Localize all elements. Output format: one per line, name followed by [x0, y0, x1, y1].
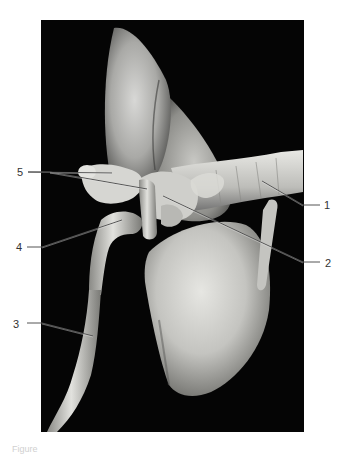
- label-1: 1: [324, 199, 330, 211]
- lung-upper-lobe: [105, 28, 171, 189]
- branch-vessel: [89, 211, 142, 295]
- heart: [145, 222, 270, 396]
- specimen-photo: [41, 20, 304, 432]
- label-5: 5: [17, 166, 23, 178]
- label-3: 3: [13, 318, 19, 330]
- figure-caption: Figure: [12, 444, 38, 454]
- descending-vessel: [47, 290, 101, 432]
- vertical-vessel: [139, 179, 157, 239]
- label-2: 2: [325, 257, 331, 269]
- label-4: 4: [16, 241, 22, 253]
- specimen-illustration: [41, 20, 304, 432]
